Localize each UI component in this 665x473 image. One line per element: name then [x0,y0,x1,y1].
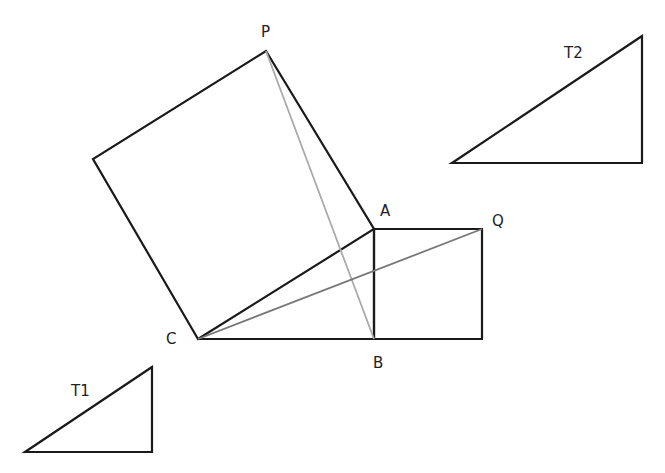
label-p: P [261,23,270,41]
square-on-ca [93,51,374,339]
label-t2: T2 [563,44,583,62]
label-q: Q [492,212,504,230]
triangle-t2 [452,36,642,163]
segment-cq [198,229,482,339]
segment-pb [266,51,374,339]
label-b: B [373,354,383,372]
label-a: A [380,202,391,220]
geometry-diagram: P A Q C B T1 T2 [0,0,665,473]
label-c: C [166,330,176,348]
triangle-t1 [25,367,152,452]
label-t1: T1 [70,382,90,400]
diagram-svg: P A Q C B T1 T2 [0,0,665,473]
rectangle-abrq [374,229,482,339]
